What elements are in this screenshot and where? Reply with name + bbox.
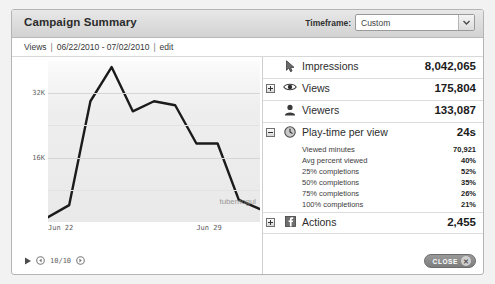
breadcrumb-date-range: 06/22/2010 - 07/02/2010: [57, 42, 150, 52]
timeframe-select[interactable]: Custom: [355, 14, 475, 31]
expander-slot: [263, 79, 278, 93]
dialog-body: tubemogul 16K32KJun 22Jun 29: [12, 57, 483, 275]
play-time-subrow: Viewed minutes70,921: [302, 145, 483, 156]
eye-icon: [278, 79, 302, 92]
chart-gridline-major: [48, 158, 260, 159]
page-title: Campaign Summary: [24, 16, 137, 28]
subrow-value: 40%: [461, 156, 483, 165]
metric-label: Actions: [302, 213, 447, 228]
dialog-header: Campaign Summary Timeframe: Custom: [12, 10, 483, 38]
subrow-value: 35%: [461, 178, 483, 187]
cursor-arrow-icon: [278, 57, 302, 73]
expand-actions-button[interactable]: [266, 218, 275, 227]
subrow-label: 50% completions: [302, 178, 461, 187]
collapse-play-time-button[interactable]: [266, 128, 275, 137]
chart-gridline-major: [48, 93, 260, 94]
subrow-value: 26%: [461, 189, 483, 198]
metric-value: 2,455: [447, 213, 483, 228]
subrow-value: 21%: [461, 200, 483, 209]
metric-value: 24s: [457, 123, 483, 138]
expander-slot: [263, 213, 278, 227]
subrow-label: Viewed minutes: [302, 145, 453, 154]
expander-slot: [263, 57, 278, 62]
expander-slot: [263, 123, 278, 137]
facebook-icon: [278, 213, 302, 227]
play-time-subrow: Avg percent viewed40%: [302, 156, 483, 167]
chart-gridline-minor: [48, 125, 260, 126]
chart-series-views: [48, 67, 260, 217]
expand-views-button[interactable]: [266, 84, 275, 93]
person-icon: [278, 101, 302, 116]
metric-row-viewers[interactable]: Viewers 133,087: [263, 101, 483, 123]
subrow-label: 25% completions: [302, 167, 461, 176]
subrow-label: Avg percent viewed: [302, 156, 461, 165]
metric-row-play-time-per-view[interactable]: Play-time per view 24s: [263, 123, 483, 145]
metric-label: Views: [302, 79, 434, 94]
play-time-subrow: 25% completions52%: [302, 167, 483, 178]
expander-slot: [263, 101, 278, 106]
metric-value: 175,804: [434, 79, 483, 94]
campaign-summary-dialog: Campaign Summary Timeframe: Custom Views…: [11, 9, 484, 275]
breadcrumb-separator: |: [51, 42, 53, 52]
chart-gridline-minor: [48, 190, 260, 191]
views-line-chart: tubemogul 16K32KJun 22Jun 29: [24, 61, 260, 236]
chart-plot-area: tubemogul 16K32KJun 22Jun 29: [48, 61, 260, 222]
subrow-label: 75% completions: [302, 189, 461, 198]
metric-row-actions[interactable]: Actions 2,455: [263, 212, 483, 234]
chart-y-tick-label: 32K: [32, 89, 45, 97]
timeframe-label: Timeframe:: [305, 18, 351, 28]
play-time-subrow: 75% completions26%: [302, 189, 483, 200]
metrics-pane: Impressions 8,042,065 Views 1: [262, 57, 483, 275]
play-time-subrow: 100% completions21%: [302, 200, 483, 211]
close-button[interactable]: CLOSE ✕: [424, 254, 476, 268]
close-button-label: CLOSE: [433, 258, 458, 265]
clock-icon: [278, 123, 302, 138]
breadcrumb-separator: |: [153, 42, 155, 52]
timeframe-selected-value: Custom: [356, 18, 390, 28]
subrow-value: 52%: [461, 167, 483, 176]
subrow-value: 70,921: [453, 145, 483, 154]
tubemogul-watermark: tubemogul: [220, 197, 256, 206]
chart-x-tick-label: Jun 29: [196, 224, 221, 232]
metric-label: Impressions: [302, 57, 425, 72]
play-time-subrow: 50% completions35%: [302, 178, 483, 189]
metric-label: Play-time per view: [302, 123, 457, 138]
timeframe-control-group: Timeframe: Custom: [305, 14, 475, 31]
metric-value: 133,087: [434, 101, 483, 116]
chart-x-tick-label: Jun 22: [48, 224, 73, 232]
chart-y-tick-label: 16K: [32, 154, 45, 162]
chart-pane: tubemogul 16K32KJun 22Jun 29: [12, 57, 264, 275]
close-x-icon[interactable]: ✕: [461, 256, 471, 266]
metric-row-impressions[interactable]: Impressions 8,042,065: [263, 57, 483, 79]
dialog-footer: CLOSE ✕: [12, 254, 483, 274]
chevron-down-icon[interactable]: [458, 15, 474, 30]
subrow-label: 100% completions: [302, 200, 461, 209]
metric-label: Viewers: [302, 101, 434, 116]
breadcrumb: Views | 06/22/2010 - 07/02/2010 | edit: [12, 38, 483, 57]
play-time-subrows: Viewed minutes70,921Avg percent viewed40…: [263, 145, 483, 212]
screenshot-root: Campaign Summary Timeframe: Custom Views…: [0, 0, 495, 284]
metric-row-views[interactable]: Views 175,804: [263, 79, 483, 101]
breadcrumb-metric[interactable]: Views: [24, 42, 47, 52]
metric-value: 8,042,065: [425, 57, 483, 72]
edit-link[interactable]: edit: [160, 42, 174, 52]
